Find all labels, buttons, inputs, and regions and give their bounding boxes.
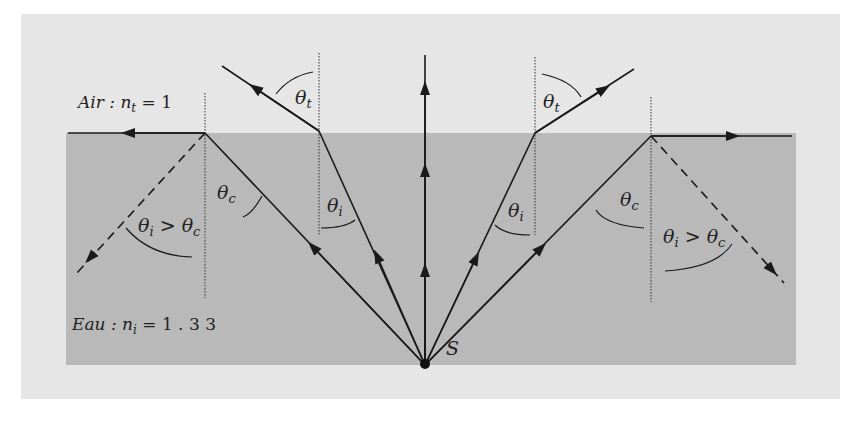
- source-point: [420, 359, 430, 369]
- total-internal-reflection-diagram: Air : nt = 1 Eau : ni = 1 . 3 3 S θt θc …: [0, 0, 865, 424]
- source-label: S: [446, 337, 459, 359]
- theta-i-gt-c-left-label: θi > θc: [138, 214, 201, 239]
- air-label: Air : nt = 1: [76, 92, 172, 115]
- water-label: Eau : ni = 1 . 3 3: [71, 314, 216, 337]
- theta-i-gt-c-right-label: θi > θc: [663, 225, 726, 250]
